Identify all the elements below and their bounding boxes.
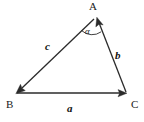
vector-a-arrow — [17, 90, 127, 97]
vector-label-a: a — [67, 103, 73, 114]
vector-c-arrow — [16, 19, 94, 94]
vector-b-shaft — [100, 24, 127, 92]
angle-label-alpha: α — [85, 27, 90, 36]
vector-label-c: c — [45, 41, 50, 52]
vector-b-arrow — [96, 17, 126, 92]
vertex-label-b: B — [6, 99, 13, 110]
vector-c-shaft — [22, 19, 94, 88]
vertex-label-a: A — [89, 1, 97, 12]
vector-label-b: b — [115, 50, 121, 61]
vertex-label-c: C — [131, 99, 138, 110]
vector-triangle-figure: A B C a b c α — [0, 0, 144, 122]
